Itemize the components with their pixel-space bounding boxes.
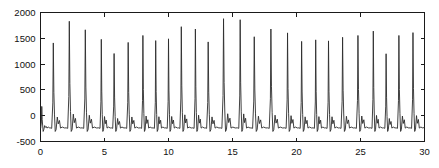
x-tick-label: 30 [419, 146, 430, 157]
x-tick-label: 5 [102, 146, 107, 157]
x-axis-tick-labels: 051015202530 [38, 146, 430, 157]
y-tick-label: 1500 [14, 33, 35, 44]
x-axis-ticks [41, 13, 425, 142]
y-axis-ticks [41, 13, 425, 142]
y-tick-label: 500 [20, 84, 36, 95]
figure-container: -5000500100015002000 051015202530 [0, 0, 439, 168]
x-tick-label: 0 [38, 146, 43, 157]
x-tick-label: 25 [355, 146, 366, 157]
axes-frame [41, 13, 425, 142]
y-tick-label: -500 [16, 136, 35, 147]
data-group [41, 19, 425, 132]
y-tick-label: 1000 [14, 59, 35, 70]
x-tick-label: 15 [227, 146, 238, 157]
pulse-signal-line [41, 19, 425, 132]
x-tick-label: 10 [163, 146, 174, 157]
y-axis-tick-labels: -5000500100015002000 [14, 7, 35, 147]
axes-group: -5000500100015002000 051015202530 [14, 7, 429, 157]
y-tick-label: 0 [30, 110, 35, 121]
x-tick-label: 20 [291, 146, 302, 157]
chart-plot: -5000500100015002000 051015202530 [0, 0, 439, 168]
y-tick-label: 2000 [14, 7, 35, 18]
